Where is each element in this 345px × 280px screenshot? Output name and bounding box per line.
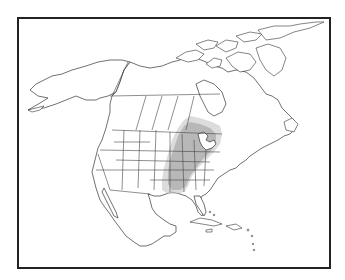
caribbean-islands (190, 211, 255, 251)
north-america-map (0, 0, 345, 280)
